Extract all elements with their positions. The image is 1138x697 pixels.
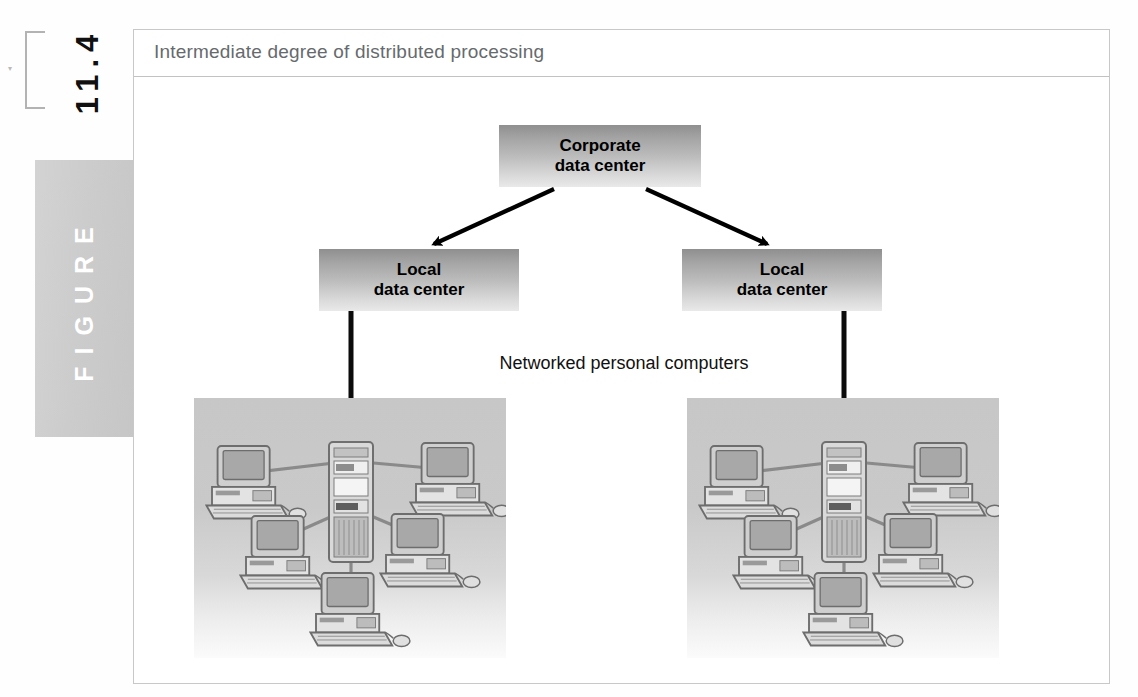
diagram-canvas: Corporate data center Local data center …: [134, 77, 1111, 684]
pc-top-left: [206, 446, 306, 519]
arrow-corporate-to-local-left: [434, 189, 554, 244]
server-tower: [822, 442, 866, 562]
local-data-center-right-node[interactable]: Local data center: [682, 249, 882, 311]
figure-marginalia: ▾ 11.4 FIGURE: [0, 0, 133, 697]
server-tower: [329, 442, 373, 562]
local-right-line-1: Local: [760, 260, 804, 280]
pc-top-right: [903, 443, 999, 516]
right-network-cluster: [687, 398, 999, 658]
figure-title-bar: Intermediate degree of distributed proce…: [134, 30, 1109, 77]
pc-mid-right: [380, 514, 480, 587]
local-data-center-left-node[interactable]: Local data center: [319, 249, 519, 311]
figure-number: 11.4: [36, 16, 140, 120]
figure-number-text: 11.4: [70, 0, 106, 152]
tiny-caret-icon: ▾: [7, 66, 13, 72]
arrow-corporate-to-local-right: [646, 189, 767, 244]
figure-frame: Intermediate degree of distributed proce…: [133, 29, 1110, 684]
pc-mid-right: [873, 514, 973, 587]
corporate-line-1: Corporate: [559, 136, 640, 156]
corporate-data-center-node[interactable]: Corporate data center: [499, 125, 701, 187]
pc-top-right: [410, 443, 506, 516]
networked-computers-label: Networked personal computers: [479, 353, 769, 374]
left-network-cluster: [194, 398, 506, 658]
corporate-line-2: data center: [555, 156, 646, 176]
pc-top-left: [699, 446, 799, 519]
figure-word-tab: FIGURE: [35, 160, 134, 437]
page-title: Intermediate degree of distributed proce…: [154, 41, 544, 63]
local-left-line-2: data center: [374, 280, 465, 300]
local-left-line-1: Local: [397, 260, 441, 280]
local-right-line-2: data center: [737, 280, 828, 300]
right-cluster-graphic: [687, 398, 999, 658]
left-cluster-graphic: [194, 398, 506, 658]
figure-word-text: FIGURE: [70, 160, 99, 437]
